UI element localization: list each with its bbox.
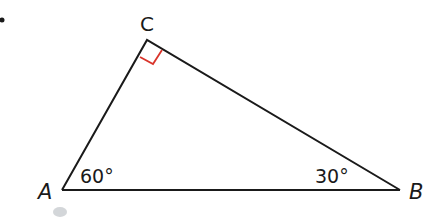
right-angle-marker: [140, 50, 162, 64]
angle-label-a: 60°: [80, 165, 114, 187]
angle-label-b: 30°: [315, 165, 349, 187]
triangle-diagram: C A B 60° 30°: [0, 0, 436, 222]
vertex-label-b: B: [409, 180, 423, 204]
vertex-label-c: C: [140, 12, 154, 36]
bullet-dot: [0, 18, 5, 23]
smudge-mark: [53, 207, 67, 217]
vertex-label-a: A: [36, 180, 52, 204]
